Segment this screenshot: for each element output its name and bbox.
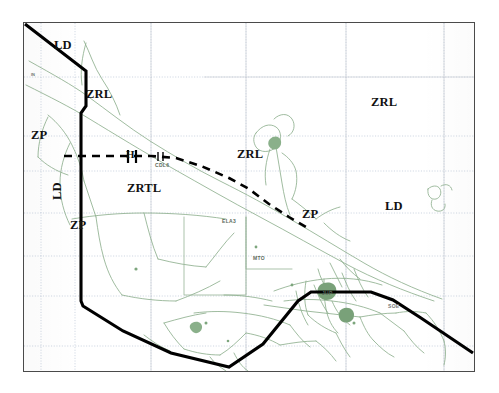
zone-label-zp-right: ZP <box>302 207 318 222</box>
zone-label-ld-right: LD <box>385 199 403 214</box>
station-label-soe: SOE <box>388 303 399 309</box>
zone-label-ld-left-vertical: LD <box>50 182 65 200</box>
zone-label-zrl-right: ZRL <box>371 95 397 110</box>
boundary-layer <box>24 23 475 372</box>
station-label-jup: JUP <box>322 290 333 296</box>
zone-label-zrl-center: ZRL <box>237 147 263 162</box>
station-label-mto: MTO <box>253 255 265 261</box>
zone-label-ld-top-left: LD <box>54 38 72 53</box>
station-label-cdl6: CDL6 <box>155 162 169 168</box>
map-frame <box>23 22 475 372</box>
zone-label-zrtl-center: ZRTL <box>127 181 161 196</box>
station-label-ela3: ELA3 <box>222 218 236 224</box>
zone-label-zp-upper-left: ZP <box>31 128 47 143</box>
station-label-in: IN <box>31 72 35 77</box>
zone-boundary-solid <box>25 24 473 367</box>
zone-boundary-dashed <box>64 156 306 227</box>
zone-label-zp-lower-left: ZP <box>70 218 86 233</box>
h-marker-label: H <box>126 148 135 160</box>
map-figure: LD ZRL ZP LD ZP ZRTL ZRL ZRL ZP LD H IN … <box>0 0 499 393</box>
zone-label-zrl-left: ZRL <box>86 87 112 102</box>
